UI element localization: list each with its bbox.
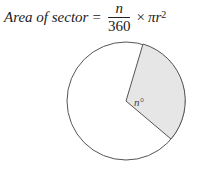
- angle-label: n°: [134, 96, 145, 108]
- sector-diagram: n°: [0, 0, 198, 173]
